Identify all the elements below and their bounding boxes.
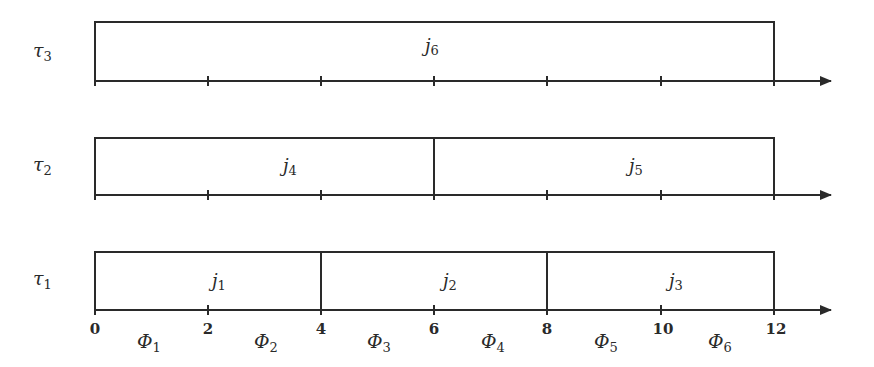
task-label-tau1: τ1: [33, 267, 52, 292]
phase-label-2: Φ2: [254, 330, 278, 355]
tick-label-6: 6: [429, 320, 439, 338]
job-label-j2: j2: [439, 270, 457, 293]
phase-label-1: Φ1: [137, 330, 161, 355]
schedule-diagram: τ3 j6 τ2 j4 j5 τ1: [0, 0, 874, 367]
job-label-j6: j6: [421, 35, 439, 58]
tick-label-4: 4: [316, 320, 326, 338]
task-label-tau2: τ2: [33, 153, 52, 178]
task-row-tau2: τ2 j4 j5: [33, 138, 831, 200]
task-row-tau1: τ1 j1 j2 j3: [33, 252, 831, 315]
task-row-tau3: τ3 j6: [33, 22, 831, 86]
job-label-j4: j4: [279, 155, 297, 178]
job-label-j5: j5: [625, 155, 643, 178]
tick-numbers: 0 2 4 6 8 10 12: [90, 320, 787, 338]
phase-label-4: Φ4: [481, 330, 505, 355]
job-label-j3: j3: [665, 270, 683, 293]
tick-label-0: 0: [90, 320, 100, 338]
tick-label-8: 8: [542, 320, 552, 338]
job-label-j1: j1: [208, 270, 226, 293]
phase-label-5: Φ5: [594, 330, 618, 355]
phase-label-3: Φ3: [367, 330, 391, 355]
tick-label-2: 2: [203, 320, 213, 338]
tick-label-12: 12: [766, 320, 787, 338]
phase-label-6: Φ6: [708, 330, 732, 355]
task-label-tau3: τ3: [33, 39, 52, 64]
tick-label-10: 10: [653, 320, 674, 338]
